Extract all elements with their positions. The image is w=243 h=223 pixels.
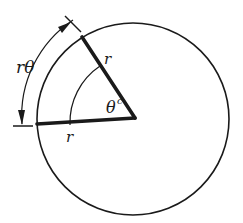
radian-diagram: rθ r r θ c [0,0,243,223]
angle-arc [70,66,100,125]
radius-lower [37,118,135,124]
angle-superscript-label: c [117,95,123,106]
radius-upper-label: r [104,50,112,68]
arrowhead-top-icon [58,22,71,33]
arrowhead-bottom-icon [18,110,25,125]
angle-label: θ [106,98,116,117]
arc-length-label: rθ [16,57,34,77]
radius-lower-label: r [66,128,74,146]
